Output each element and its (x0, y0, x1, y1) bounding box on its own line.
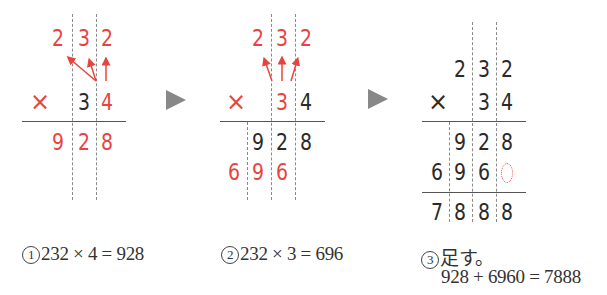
column-guide-hundreds (449, 122, 450, 222)
multiplicand-tens: 3 (476, 56, 492, 82)
partial-product-2-tens: 6 (476, 159, 492, 185)
multiplier-ones: 4 (499, 89, 515, 115)
partial-product-2-thousands: 6 (429, 159, 445, 185)
step-number-badge: 3 (421, 251, 439, 269)
sum-thousands: 7 (429, 199, 445, 225)
partial-product-1-ones: 8 (499, 129, 515, 155)
partial-product-2-hundreds: 9 (452, 159, 468, 185)
multiplicand-hundreds: 2 (452, 56, 468, 82)
step-3-equation: 928 + 6960 = 7888 (441, 266, 581, 288)
partial-product-1-hundreds: 9 (452, 129, 468, 155)
sum-hundreds: 8 (452, 199, 468, 225)
product-rule (422, 121, 526, 122)
sum-rule (422, 192, 526, 193)
implied-zero-marker (501, 163, 513, 183)
multiplicand-ones: 2 (499, 56, 515, 82)
multiply-operator: × (428, 89, 448, 115)
multiplier-tens: 3 (476, 89, 492, 115)
step-3-panel: 2 3 2 × 3 4 9 2 8 6 9 6 7 8 8 8 3足す。 928… (0, 0, 607, 295)
partial-product-1-tens: 2 (476, 129, 492, 155)
sum-ones: 8 (499, 199, 515, 225)
sum-tens: 8 (476, 199, 492, 225)
